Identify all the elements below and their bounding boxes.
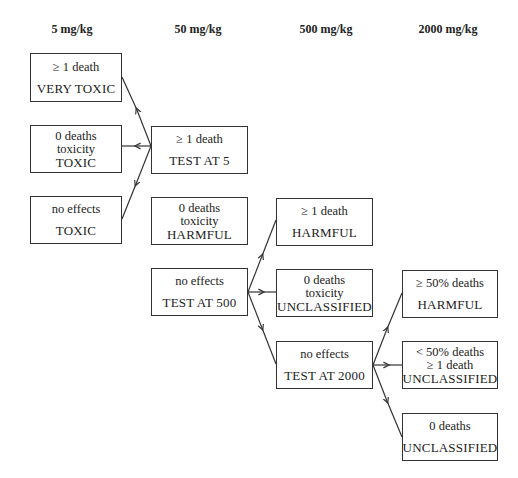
- box-line: ≥ 1 death: [176, 133, 222, 146]
- box-line: ≥ 50% deaths: [416, 277, 484, 290]
- box-line: no effects: [175, 275, 224, 288]
- box-line: TOXIC: [56, 224, 96, 237]
- box-harmful-50: 0 deaths toxicity HARMFUL: [151, 197, 248, 245]
- box-unclassified-500: 0 deaths toxicity UNCLASSIFIED: [276, 269, 373, 317]
- edge-test2000-harmful: [373, 293, 402, 365]
- box-line: toxicity: [57, 143, 95, 156]
- box-line: 0 deaths: [429, 420, 470, 433]
- box-line: ≥ 1 death: [53, 61, 99, 74]
- box-line: HARMFUL: [292, 226, 357, 239]
- box-unclassified-lt50: < 50% deaths ≥ 1 death UNCLASSIFIED: [402, 341, 498, 389]
- box-line: HARMFUL: [418, 298, 483, 311]
- box-line: UNCLASSIFIED: [403, 372, 498, 385]
- box-line: TEST AT 2000: [284, 369, 365, 382]
- box-harmful-500: ≥ 1 death HARMFUL: [276, 198, 373, 246]
- box-test-at-500: no effects TEST AT 500: [151, 268, 248, 316]
- edge-test5-verytoxic: [122, 77, 151, 146]
- edge-test500-harmful: [248, 220, 276, 292]
- box-line: 0 deaths: [55, 130, 96, 143]
- box-line: UNCLASSIFIED: [277, 300, 372, 313]
- box-line: no effects: [52, 203, 101, 216]
- box-line: ≥ 1 death: [427, 359, 473, 372]
- box-very-toxic: ≥ 1 death VERY TOXIC: [30, 53, 122, 102]
- box-line: toxicity: [305, 287, 343, 300]
- box-line: TEST AT 5: [169, 154, 230, 167]
- box-line: TOXIC: [56, 156, 96, 169]
- box-line: HARMFUL: [167, 228, 232, 241]
- box-line: 0 deaths: [304, 274, 345, 287]
- box-line: UNCLASSIFIED: [403, 441, 498, 454]
- edge-test500-test2000: [248, 292, 276, 364]
- box-line: ≥ 1 death: [301, 205, 347, 218]
- box-line: < 50% deaths: [416, 346, 484, 359]
- box-line: TEST AT 500: [163, 296, 237, 309]
- box-line: no effects: [300, 348, 349, 361]
- edge-test5-toxic-noeffects: [122, 146, 151, 219]
- box-line: toxicity: [180, 215, 218, 228]
- box-harmful-2000: ≥ 50% deaths HARMFUL: [402, 270, 498, 318]
- edge-test2000-unclassified-0: [373, 365, 402, 437]
- box-test-at-5: ≥ 1 death TEST AT 5: [151, 126, 248, 174]
- box-line: VERY TOXIC: [37, 82, 116, 95]
- box-toxic-0-deaths: 0 deaths toxicity TOXIC: [30, 125, 122, 173]
- box-line: 0 deaths: [179, 202, 220, 215]
- box-test-at-2000: no effects TEST AT 2000: [276, 341, 373, 389]
- box-toxic-no-effects: no effects TOXIC: [30, 196, 122, 244]
- box-unclassified-0-deaths: 0 deaths UNCLASSIFIED: [402, 413, 498, 461]
